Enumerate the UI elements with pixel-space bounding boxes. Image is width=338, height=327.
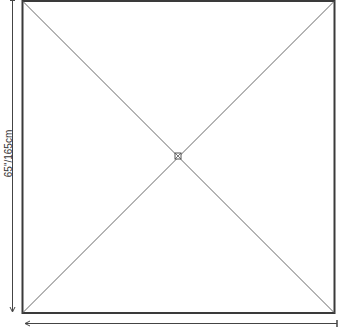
- center-marker: [175, 153, 181, 159]
- horizontal-dimension-arrow: [25, 320, 337, 327]
- dimension-label: 65"/165cm: [3, 124, 14, 184]
- canopy-diagram: [0, 0, 338, 327]
